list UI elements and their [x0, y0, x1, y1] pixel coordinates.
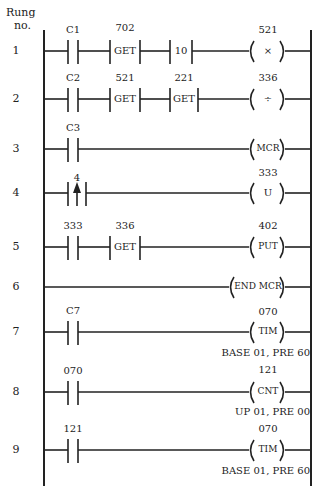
rung-1-contact-label: C1 [58, 24, 88, 35]
rung-1-get-text: GET [110, 45, 140, 56]
rung-9-timer-params: BASE 01, PRE 60 [200, 465, 310, 476]
rung-5-coil-label: 402 [252, 220, 284, 231]
rung-2-coil-label: 336 [252, 72, 284, 83]
rung-5-get-text: GET [110, 241, 140, 252]
rung-2-get1-label: 521 [110, 72, 140, 83]
rung-8-contact-label: 070 [58, 365, 88, 376]
rung-4-transition-contact-label: 4 [62, 172, 92, 183]
rung-6-end-mcr-coil: END MCR [232, 281, 284, 291]
rung-1-get-label: 702 [110, 22, 140, 33]
rung-2-contact-label: C2 [58, 72, 88, 83]
rung-8-coil-label: 121 [252, 364, 284, 375]
rung-3-contact-label: C3 [58, 122, 88, 133]
rung-7-timer-params: BASE 01, PRE 60 [200, 347, 310, 358]
rung-8-counter-coil: CNT [250, 386, 286, 396]
rung-9-timer-coil: TIM [250, 444, 286, 454]
rung-1-multiply-coil: × [252, 45, 284, 56]
rung-4-coil-label: 333 [252, 167, 284, 178]
rung-7-timer-coil: TIM [250, 326, 286, 336]
rung-8-counter-params: UP 01, PRE 00 [200, 406, 310, 417]
rung-1-value-text: 10 [170, 45, 192, 56]
rung-5-put-coil: PUT [250, 241, 286, 251]
rung-1-coil-label: 521 [252, 24, 284, 35]
rung-3-mcr-coil: MCR [250, 143, 286, 153]
rung-2-divide-coil: ÷ [252, 93, 284, 104]
rung-5-contact-label: 333 [58, 220, 88, 231]
rung-7-contact-label: C7 [58, 305, 88, 316]
rung-5-get-label: 336 [110, 220, 140, 231]
rung-2-get1-text: GET [110, 93, 140, 104]
rung-2-get2-text: GET [170, 93, 198, 104]
rung-4-unlatch-coil: U [252, 187, 284, 198]
rung-2-get2-label: 221 [170, 72, 198, 83]
rung-9-coil-label: 070 [252, 423, 284, 434]
rung-9-contact-label: 121 [58, 423, 88, 434]
rung-7-coil-label: 070 [252, 306, 284, 317]
